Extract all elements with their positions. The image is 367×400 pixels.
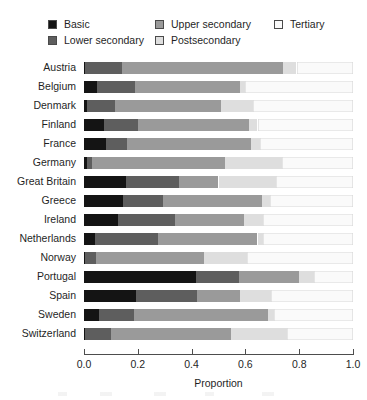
stacked-bar (84, 233, 353, 245)
x-axis-tick (245, 349, 246, 355)
bar-segment-upper-secondary (163, 195, 261, 207)
legend-label-tertiary: Tertiary (290, 19, 324, 30)
stacked-bar (84, 214, 353, 226)
bar-segment-basic (84, 176, 126, 188)
bar-segment-tertiary (271, 290, 353, 302)
stacked-bar (84, 81, 353, 93)
legend-swatch-lower-secondary (48, 36, 57, 45)
country-label-netherlands: Netherlands (0, 229, 76, 248)
bar-segment-basic (84, 195, 123, 207)
chart-row: Greece (0, 191, 367, 210)
bar-segment-lower-secondary (85, 328, 111, 340)
country-label-finland: Finland (0, 115, 76, 134)
bar-segment-upper-secondary (134, 309, 269, 321)
chart-row: Sweden (0, 305, 367, 324)
chart-row: Netherlands (0, 229, 367, 248)
bar-segment-lower-secondary (87, 100, 115, 112)
chart-legend: Basic Lower secondary Upper secondary Po… (0, 18, 367, 54)
legend-label-basic: Basic (64, 19, 90, 30)
country-label-denmark: Denmark (0, 96, 76, 115)
country-label-greece: Greece (0, 191, 76, 210)
legend-label-lower-secondary: Lower secondary (64, 35, 144, 46)
bar-segment-tertiary (287, 328, 353, 340)
x-axis-tick-label: 0.4 (172, 358, 212, 370)
bar-segment-lower-secondary (126, 176, 180, 188)
country-label-spain: Spain (0, 286, 76, 305)
chart-row: Spain (0, 286, 367, 305)
chart-row: Ireland (0, 210, 367, 229)
bar-segment-basic (84, 214, 118, 226)
bar-segment-lower-secondary (99, 309, 134, 321)
bar-segment-tertiary (282, 157, 353, 169)
legend-item-basic: Basic (48, 19, 90, 30)
x-axis-tick (192, 349, 193, 355)
x-axis-tick (353, 349, 354, 355)
legend-item-tertiary: Tertiary (274, 19, 324, 30)
bar-segment-lower-secondary (106, 138, 128, 150)
bar-segment-upper-secondary (96, 252, 204, 264)
legend-label-postsecondary: Postsecondary (171, 35, 240, 46)
bar-segment-tertiary (314, 271, 353, 283)
bar-segment-postsecondary (249, 119, 257, 131)
legend-swatch-postsecondary (155, 36, 164, 45)
bar-segment-upper-secondary (135, 81, 240, 93)
bar-segment-lower-secondary (136, 290, 197, 302)
bar-segment-lower-secondary (123, 195, 163, 207)
stacked-bar (84, 271, 353, 283)
stacked-bar (84, 100, 353, 112)
legend-swatch-basic (48, 20, 57, 29)
legend-item-lower-secondary: Lower secondary (48, 35, 144, 46)
country-label-france: France (0, 134, 76, 153)
bar-segment-tertiary (263, 233, 353, 245)
bar-segment-basic (84, 290, 136, 302)
bar-segment-lower-secondary (97, 81, 135, 93)
bar-segment-lower-secondary (85, 62, 121, 74)
bar-segment-lower-secondary (104, 119, 138, 131)
x-axis-tick (84, 349, 85, 355)
chart-row: Germany (0, 153, 367, 172)
bar-segment-upper-secondary (127, 138, 251, 150)
bar-segment-upper-secondary (122, 62, 283, 74)
bar-segment-lower-secondary (196, 271, 239, 283)
bar-segment-tertiary (274, 309, 353, 321)
bar-segment-tertiary (260, 138, 353, 150)
bar-segment-postsecondary (240, 290, 271, 302)
bar-segment-basic (84, 81, 97, 93)
x-axis-tick-label: 0.0 (64, 358, 104, 370)
bar-segment-postsecondary (244, 214, 263, 226)
x-axis-line (84, 354, 353, 355)
legend-item-upper-secondary: Upper secondary (155, 19, 251, 30)
x-axis-title: Proportion (84, 377, 353, 389)
country-label-norway: Norway (0, 248, 76, 267)
x-axis-tick (299, 349, 300, 355)
stacked-bar (84, 119, 353, 131)
x-axis-tick (138, 349, 139, 355)
x-axis-tick-label: 0.8 (279, 358, 319, 370)
bar-segment-postsecondary (283, 62, 296, 74)
chart-row: Norway (0, 248, 367, 267)
country-label-great-britain: Great Britain (0, 172, 76, 191)
bar-segment-tertiary (253, 100, 353, 112)
bar-segment-postsecondary (225, 157, 281, 169)
bar-segment-postsecondary (251, 138, 260, 150)
bar-segment-postsecondary (204, 252, 247, 264)
bar-segment-upper-secondary (92, 157, 225, 169)
stacked-bar (84, 157, 353, 169)
stacked-bar (84, 176, 353, 188)
bar-segment-basic (84, 309, 99, 321)
country-label-belgium: Belgium (0, 77, 76, 96)
x-axis-tick-label: 0.6 (225, 358, 265, 370)
bar-segment-lower-secondary (85, 252, 97, 264)
bar-segment-basic (84, 138, 106, 150)
stacked-bar (84, 62, 353, 74)
country-label-portugal: Portugal (0, 267, 76, 286)
bar-segment-tertiary (263, 214, 353, 226)
bar-segment-tertiary (297, 62, 353, 74)
x-axis-tick-label: 0.2 (118, 358, 158, 370)
chart-row: France (0, 134, 367, 153)
country-label-ireland: Ireland (0, 210, 76, 229)
bar-segment-basic (84, 233, 95, 245)
bar-segment-upper-secondary (239, 271, 300, 283)
bar-segment-tertiary (270, 195, 353, 207)
plot-area: AustriaBelgiumDenmarkFinlandFranceGerman… (0, 58, 367, 348)
